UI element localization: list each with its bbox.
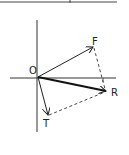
vector-f-arrow bbox=[38, 47, 93, 77]
vector-t-label: T bbox=[42, 118, 50, 129]
vector-diagram: O F R T bbox=[0, 0, 129, 155]
vector-r-label: R bbox=[111, 87, 118, 98]
vector-r-arrow bbox=[38, 77, 106, 91]
top-border bbox=[0, 0, 117, 3]
dashed-line-t-to-r bbox=[49, 92, 105, 115]
dashed-line-f-to-r bbox=[94, 48, 105, 89]
vector-t-arrow bbox=[38, 77, 48, 115]
origin-label: O bbox=[29, 65, 37, 76]
vector-f-label: F bbox=[92, 36, 98, 47]
